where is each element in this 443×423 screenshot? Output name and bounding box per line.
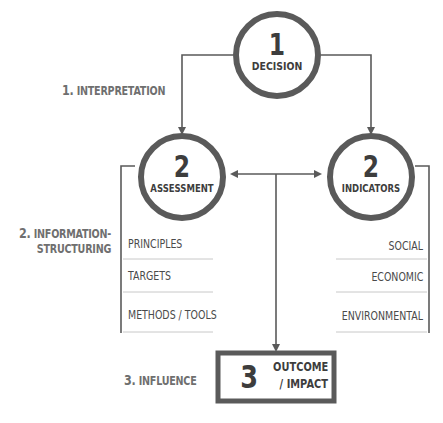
assessment-item-targets: TARGETS [128,269,181,283]
indicators-node: 2 INDICATORS [330,152,412,195]
assessment-node: 2 ASSESSMENT [141,152,223,195]
arrow-decision-to-indicators [321,55,371,133]
stage-information-number: 2. [19,225,31,241]
assessment-item-principles: PRINCIPLES [128,237,194,251]
stage-information-line1: INFORMATION- [34,227,111,241]
stage-influence-text: INFLUENCE [139,374,197,388]
assessment-item-methods-tools: METHODS / TOOLS [128,308,236,322]
stage-influence-number: 3. [124,372,136,388]
outcome-label-line1: OUTCOME [273,360,328,375]
outcome-node: 3 OUTCOME / IMPACT [220,356,332,398]
arrow-decision-to-assessment [182,55,233,133]
indicator-item-environmental: ENVIRONMENTAL [324,309,423,323]
decision-process-diagram: 1 DECISION 2 ASSESSMENT 2 INDICATORS 3 O… [0,0,443,423]
assessment-number: 2 [150,152,214,182]
assessment-label: ASSESSMENT [147,182,217,195]
decision-number: 1 [245,30,309,60]
indicator-item-economic: ECONOMIC [360,270,423,284]
indicators-label: INDICATORS [336,182,406,195]
indicators-number: 2 [339,152,403,182]
outcome-number: 3 [240,360,258,394]
stage-interpretation-number: 1. [62,82,74,98]
stage-interpretation-text: INTERPRETATION [77,84,166,98]
stage-information-structuring-label: 2. INFORMATION- STRUCTURING [19,226,111,257]
decision-node: 1 DECISION [236,30,318,73]
stage-interpretation-label: 1. INTERPRETATION [62,82,165,98]
indicator-item-social: SOCIAL [381,239,423,253]
stage-influence-label: 3. INFLUENCE [124,372,196,388]
outcome-label-line2: / IMPACT [280,377,328,392]
stage-information-line2: STRUCTURING [19,242,111,257]
decision-label: DECISION [242,60,312,73]
